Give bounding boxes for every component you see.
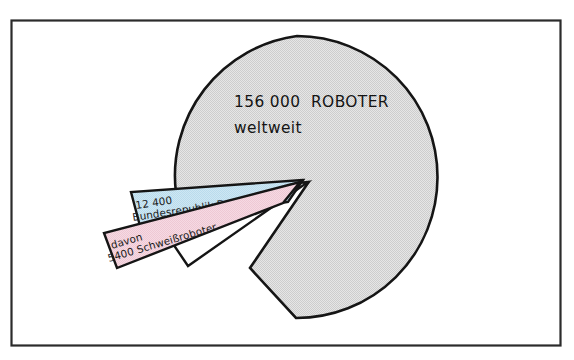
chart-canvas: 156 000 ROBOTER weltweit 12 400 Bundesre… [0, 0, 574, 360]
pie-slice-weltweit [175, 36, 438, 318]
center-label-line2: weltweit [234, 119, 302, 137]
center-label-line1: 156 000 ROBOTER [234, 93, 389, 111]
pie-chart-figure: 156 000 ROBOTER weltweit 12 400 Bundesre… [0, 0, 574, 360]
